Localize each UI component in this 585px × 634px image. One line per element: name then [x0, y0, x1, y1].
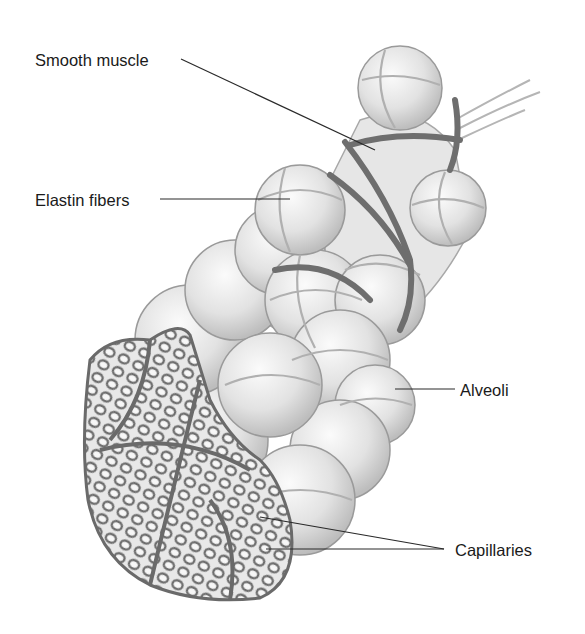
alveolar-illustration — [0, 0, 585, 634]
label-elastin-fibers: Elastin fibers — [35, 192, 129, 209]
leader-smooth-muscle — [181, 59, 375, 150]
bronchiole-fibers — [455, 80, 540, 138]
label-smooth-muscle: Smooth muscle — [35, 52, 149, 69]
label-capillaries: Capillaries — [455, 542, 532, 559]
label-alveoli: Alveoli — [460, 382, 509, 399]
